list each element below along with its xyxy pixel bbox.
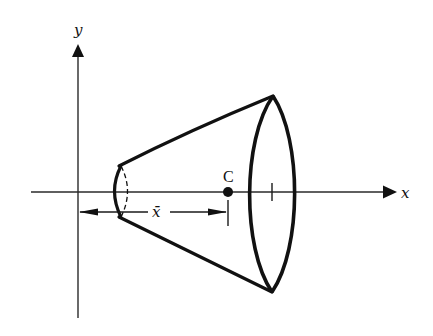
large-end-right-arc xyxy=(272,96,295,292)
solid-body xyxy=(115,96,295,292)
centroid-diagram: y x C x̄ xyxy=(0,0,433,336)
bottom-generator xyxy=(119,217,272,292)
y-axis: y xyxy=(72,21,84,318)
centroid-label: C xyxy=(223,168,234,185)
dimension-left-arrowhead-icon xyxy=(79,209,98,216)
x-bar-dimension: x̄ xyxy=(79,200,228,226)
centroid-point xyxy=(223,187,233,197)
x-axis-label: x xyxy=(401,184,410,202)
x-axis-arrowhead-icon xyxy=(383,186,397,199)
dimension-right-arrowhead-icon xyxy=(208,209,227,216)
centroid: C xyxy=(223,168,234,197)
y-axis-label: y xyxy=(73,21,83,39)
top-generator xyxy=(119,96,273,166)
x-axis: x xyxy=(31,184,410,202)
large-end-left-arc xyxy=(250,96,273,292)
y-axis-arrowhead-icon xyxy=(72,44,84,57)
x-bar-label: x̄ xyxy=(152,203,161,221)
